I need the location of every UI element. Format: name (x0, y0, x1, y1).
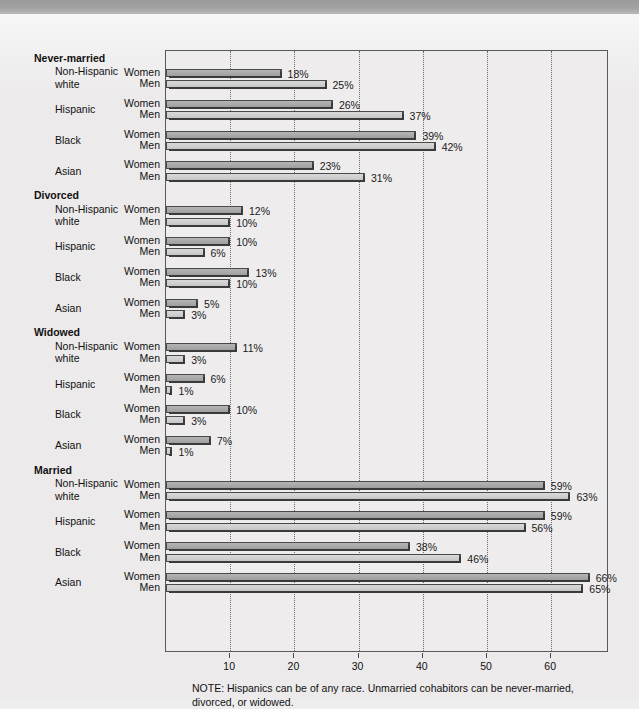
x-tick-label-10: 10 (209, 660, 249, 672)
group-label-hispanic: Hispanic (55, 515, 155, 528)
bar-value-label: 31% (371, 172, 392, 184)
bar-value-label: 63% (576, 491, 597, 503)
group-label-line1: Non-Hispanic (55, 65, 155, 78)
bar-divorced-asian-men (166, 310, 185, 318)
bar-married-asian-women (166, 573, 590, 581)
bar-widowed-asian-men (166, 447, 172, 455)
bar-value-label: 59% (551, 480, 572, 492)
bar-widowed-non-hispanic-white-men (166, 355, 185, 363)
bar-value-label: 5% (204, 298, 219, 310)
chart-note: NOTE: Hispanics can be of any race. Unma… (192, 682, 612, 709)
bar-value-label: 6% (211, 247, 226, 259)
bar-value-label: 26% (339, 99, 360, 111)
bar-value-label: 1% (178, 446, 193, 458)
bar-value-label: 25% (333, 79, 354, 91)
bar-value-label: 65% (589, 583, 610, 595)
bar-divorced-black-men (166, 279, 230, 287)
bar-married-hispanic-women (166, 511, 545, 519)
x-tick-50 (486, 653, 487, 658)
bar-value-label: 13% (255, 267, 276, 279)
group-label-black: Black (55, 408, 155, 421)
x-tick-60 (550, 653, 551, 658)
group-label-line1: Non-Hispanic (55, 203, 155, 216)
x-tick-30 (358, 653, 359, 658)
group-label-line2: white (55, 352, 155, 365)
group-label-asian: Asian (55, 165, 155, 178)
bar-value-label: 10% (236, 236, 257, 248)
bar-value-label: 3% (191, 415, 206, 427)
bar-value-label: 42% (442, 141, 463, 153)
bar-divorced-non-hispanic-white-women (166, 206, 243, 214)
bar-widowed-asian-women (166, 436, 211, 444)
bar-never-married-non-hispanic-white-women (166, 69, 282, 77)
figure-page: Never-marriedWomenMenNon-HispanicwhiteWo… (0, 14, 639, 700)
bar-never-married-hispanic-men (166, 111, 404, 119)
group-label-asian: Asian (55, 576, 155, 589)
gridline-60 (551, 51, 552, 651)
group-label-hispanic: Hispanic (55, 103, 155, 116)
group-label-line2: white (55, 490, 155, 503)
bar-value-label: 10% (236, 217, 257, 229)
bar-value-label: 11% (243, 342, 263, 354)
bar-married-asian-men (166, 584, 583, 592)
group-label-non-hispanic: Non-Hispanicwhite (55, 203, 155, 228)
section-heading-divorced: Divorced (34, 189, 79, 201)
bar-divorced-hispanic-women (166, 237, 230, 245)
bar-value-label: 46% (467, 553, 488, 565)
bar-value-label: 6% (211, 373, 226, 385)
section-heading-married: Married (34, 464, 72, 476)
group-label-black: Black (55, 546, 155, 559)
x-tick-label-20: 20 (273, 660, 313, 672)
bar-divorced-asian-women (166, 299, 198, 307)
chart-plot-area: 18%25%26%37%39%42%23%31%12%10%10%6%13%10… (165, 50, 608, 652)
group-label-asian: Asian (55, 439, 155, 452)
bar-widowed-hispanic-men (166, 386, 172, 394)
bar-value-label: 59% (551, 510, 572, 522)
bar-widowed-black-women (166, 405, 230, 413)
bar-married-hispanic-men (166, 523, 526, 531)
bar-divorced-hispanic-men (166, 248, 205, 256)
section-heading-widowed: Widowed (34, 326, 80, 338)
x-tick-40 (422, 653, 423, 658)
group-label-non-hispanic: Non-Hispanicwhite (55, 65, 155, 90)
bar-divorced-non-hispanic-white-men (166, 218, 230, 226)
bar-widowed-hispanic-women (166, 374, 205, 382)
bar-value-label: 39% (422, 130, 443, 142)
bar-value-label: 10% (236, 404, 257, 416)
x-tick-label-60: 60 (530, 660, 570, 672)
bar-value-label: 7% (217, 435, 232, 447)
section-heading-never-married: Never-married (34, 52, 105, 64)
bar-value-label: 23% (320, 160, 341, 172)
x-tick-label-50: 50 (466, 660, 506, 672)
group-label-line2: white (55, 78, 155, 91)
group-label-hispanic: Hispanic (55, 378, 155, 391)
bar-widowed-non-hispanic-white-women (166, 343, 237, 351)
bar-married-non-hispanic-white-women (166, 481, 545, 489)
bar-divorced-black-women (166, 268, 249, 276)
group-label-hispanic: Hispanic (55, 240, 155, 253)
bar-value-label: 66% (596, 572, 617, 584)
x-tick-10 (229, 653, 230, 658)
group-label-asian: Asian (55, 302, 155, 315)
group-label-black: Black (55, 271, 155, 284)
bar-value-label: 3% (191, 309, 206, 321)
group-label-line1: Non-Hispanic (55, 477, 155, 490)
x-tick-20 (293, 653, 294, 658)
group-label-black: Black (55, 134, 155, 147)
bar-value-label: 37% (410, 110, 431, 122)
group-label-line1: Non-Hispanic (55, 340, 155, 353)
bar-married-black-men (166, 554, 461, 562)
bar-married-black-women (166, 542, 410, 550)
page-top-band (0, 0, 639, 14)
x-tick-label-40: 40 (402, 660, 442, 672)
bar-never-married-black-women (166, 131, 416, 139)
bar-value-label: 10% (236, 278, 257, 290)
bar-widowed-black-men (166, 416, 185, 424)
bar-value-label: 38% (416, 541, 437, 553)
bar-never-married-non-hispanic-white-men (166, 80, 327, 88)
group-label-non-hispanic: Non-Hispanicwhite (55, 340, 155, 365)
group-label-non-hispanic: Non-Hispanicwhite (55, 477, 155, 502)
bar-never-married-asian-women (166, 161, 314, 169)
bar-never-married-asian-men (166, 173, 365, 181)
bar-never-married-black-men (166, 142, 436, 150)
